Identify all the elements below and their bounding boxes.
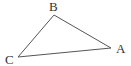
vertex-label-b: B bbox=[49, 0, 58, 14]
vertex-label-c: C bbox=[5, 52, 14, 66]
vertex-label-a: A bbox=[116, 41, 126, 56]
triangle-diagram: A B C bbox=[0, 0, 131, 66]
triangle-abc bbox=[18, 15, 111, 57]
